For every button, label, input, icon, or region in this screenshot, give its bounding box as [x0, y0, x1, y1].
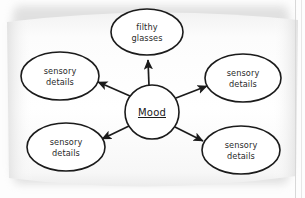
node-sensory-details-bottom-right-shape [202, 126, 280, 174]
node-sensory-details-top-right[interactable]: sensory details [205, 54, 281, 102]
node-sensory-details-top-left-label-line1: sensory [44, 66, 77, 76]
node-filthy-glasses-label-line1: filthy [136, 22, 157, 32]
node-sensory-details-top-right-label-line1: sensory [227, 68, 260, 78]
node-sensory-details-bottom-right[interactable]: sensory details [202, 126, 280, 174]
node-sensory-details-bottom-left-shape [27, 123, 105, 171]
node-mood-center[interactable]: Mood [125, 85, 179, 139]
node-mood-center-label: Mood [138, 107, 166, 118]
node-sensory-details-bottom-left[interactable]: sensory details [27, 123, 105, 171]
node-sensory-details-top-left[interactable]: sensory details [21, 52, 99, 100]
node-sensory-details-top-right-label-line2: details [229, 79, 257, 89]
edge-center-to-top [148, 60, 149, 86]
mind-map-diagram: filthy glasses sensory details sensory d… [0, 0, 305, 198]
node-filthy-glasses-shape [111, 9, 183, 55]
node-sensory-details-top-left-label-line2: details [46, 77, 74, 87]
edge-center-to-top-left [98, 82, 130, 96]
node-sensory-details-bottom-left-label-line1: sensory [50, 137, 83, 147]
node-sensory-details-top-left-shape [21, 52, 99, 100]
node-sensory-details-bottom-right-label-line2: details [227, 151, 255, 161]
node-sensory-details-bottom-right-label-line1: sensory [225, 140, 258, 150]
edge-center-to-bottom-right [175, 127, 203, 141]
node-sensory-details-bottom-left-label-line2: details [52, 148, 80, 158]
node-filthy-glasses[interactable]: filthy glasses [111, 9, 183, 55]
node-filthy-glasses-label-line2: glasses [131, 33, 162, 43]
edge-center-to-bottom-left [102, 126, 129, 139]
screenshot-canvas: filthy glasses sensory details sensory d… [0, 0, 305, 198]
edge-center-to-top-right [176, 86, 207, 98]
node-sensory-details-top-right-shape [205, 54, 281, 102]
